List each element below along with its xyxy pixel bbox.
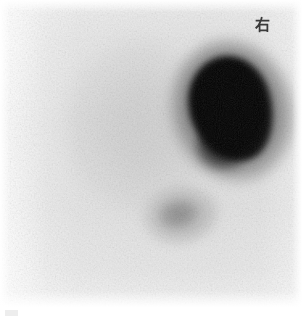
footer-color-tag [5,310,18,316]
orientation-marker-right: 右 [252,14,272,36]
scintigram-viewer: 右 [0,0,302,319]
footer-strip [0,307,302,319]
scan-image-field[interactable]: 右 [0,0,302,307]
